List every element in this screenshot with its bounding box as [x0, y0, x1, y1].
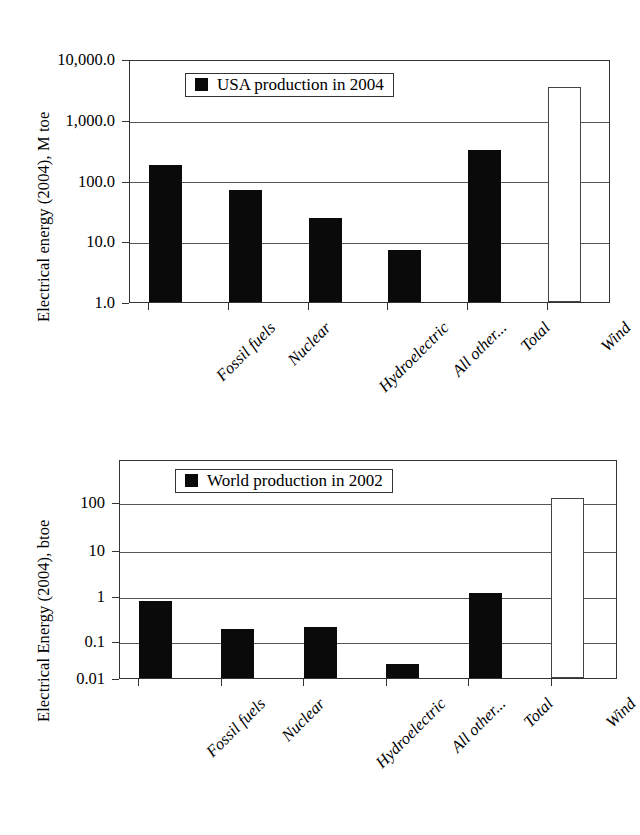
y-tick-label: 1: [5, 587, 105, 607]
bar-all-other: [386, 664, 419, 678]
y-tick-label: 1,000.0: [10, 111, 115, 131]
x-category-label: All other...: [448, 318, 511, 381]
bar-hydroelectric: [309, 218, 342, 302]
y-tick-label: 100: [5, 493, 105, 513]
gridline: [130, 182, 609, 183]
x-axis-tick: [551, 679, 552, 686]
y-axis-tick: [112, 597, 119, 598]
x-category-label: Nuclear: [278, 694, 330, 746]
x-category-label: Wind: [602, 694, 640, 732]
y-axis-tick: [122, 60, 129, 61]
bar-wind: [548, 87, 581, 302]
y-axis-tick: [112, 642, 119, 643]
gridline: [120, 504, 616, 505]
bar-nuclear: [221, 629, 254, 678]
bar-nuclear: [229, 190, 262, 302]
gridline: [130, 122, 609, 123]
y-tick-label: 0.01: [5, 669, 105, 689]
bar-total: [468, 150, 501, 302]
legend-swatch-icon: [195, 78, 208, 91]
y-axis-tick: [112, 679, 119, 680]
chart-world-production-2002: Electrical Energy (2004), btoe 100 10 1 …: [0, 417, 636, 835]
bar-fossil-fuels: [139, 601, 172, 678]
y-axis-title: Electrical energy (2004), M toe: [34, 112, 54, 322]
chart-legend: USA production in 2004: [185, 73, 394, 97]
y-tick-label: 1.0: [10, 293, 115, 313]
x-axis-tick: [228, 303, 229, 310]
x-axis-tick: [303, 679, 304, 686]
legend-swatch-icon: [185, 474, 198, 487]
x-axis-tick: [547, 303, 548, 310]
x-axis-tick: [138, 679, 139, 686]
y-axis-tick: [112, 551, 119, 552]
y-axis-tick: [122, 182, 129, 183]
y-tick-label: 10.0: [10, 232, 115, 252]
legend-label: USA production in 2004: [217, 76, 384, 93]
plot-area: USA production in 2004: [129, 60, 610, 303]
x-category-label: Total: [517, 318, 555, 356]
bar-hydroelectric: [304, 627, 337, 678]
x-axis-tick: [221, 679, 222, 686]
x-category-label: Fossil fuels: [202, 694, 270, 762]
bar-total: [469, 593, 502, 678]
y-axis-tick: [122, 242, 129, 243]
y-axis-tick: [122, 121, 129, 122]
legend-label: World production in 2002: [207, 472, 383, 489]
x-axis-tick: [468, 679, 469, 686]
y-tick-label: 10,000.0: [10, 50, 115, 70]
x-category-label: Hydroelectric: [375, 318, 454, 397]
x-category-label: Nuclear: [284, 318, 336, 370]
gridline: [120, 552, 616, 553]
gridline: [130, 243, 609, 244]
y-tick-label: 10: [5, 541, 105, 561]
gridline: [120, 598, 616, 599]
bar-all-other: [388, 250, 421, 302]
x-axis-tick: [387, 303, 388, 310]
x-axis-tick: [386, 679, 387, 686]
chart-usa-production-2004: Electrical energy (2004), M toe 10,000.0…: [0, 0, 636, 418]
y-tick-label: 100.0: [10, 172, 115, 192]
x-category-label: Wind: [597, 318, 635, 356]
y-axis-tick: [122, 303, 129, 304]
x-category-label: Hydroelectric: [372, 694, 451, 773]
x-axis-tick: [467, 303, 468, 310]
chart-legend: World production in 2002: [175, 469, 393, 493]
gridline: [120, 643, 616, 644]
y-axis-tick: [112, 503, 119, 504]
bar-fossil-fuels: [149, 165, 182, 302]
x-axis-tick: [308, 303, 309, 310]
y-tick-label: 0.1: [5, 632, 105, 652]
x-category-label: Fossil fuels: [212, 318, 280, 386]
plot-area: World production in 2002: [119, 460, 617, 679]
x-category-label: Total: [520, 694, 558, 732]
x-axis-tick: [148, 303, 149, 310]
x-category-label: All other...: [447, 694, 510, 757]
bar-wind: [551, 498, 584, 678]
